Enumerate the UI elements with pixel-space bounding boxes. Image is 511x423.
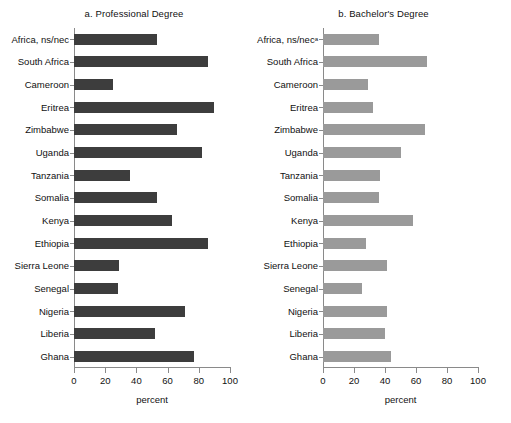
bar-row	[74, 323, 230, 346]
bar	[74, 351, 194, 362]
category-label: Liberia	[40, 323, 69, 346]
category-label: Zimbabwe	[25, 119, 69, 142]
category-label: Ethiopia	[284, 232, 318, 255]
bar	[74, 283, 118, 294]
bar-row	[323, 345, 478, 368]
y-tick-mark	[319, 221, 323, 222]
x-tick-mark	[136, 368, 137, 373]
category-label: Zimbabwe	[274, 119, 318, 142]
bar-row	[74, 232, 230, 255]
y-tick-mark	[70, 243, 74, 244]
y-tick-mark	[319, 175, 323, 176]
y-tick-mark	[70, 62, 74, 63]
bar	[323, 147, 401, 158]
bar-row	[323, 141, 478, 164]
panel-a-category-labels: Africa, ns/necSouth AfricaCameroonEritre…	[0, 28, 69, 368]
bar-row	[323, 73, 478, 96]
y-tick-mark	[319, 266, 323, 267]
bar	[323, 170, 380, 181]
category-label: Somalia	[35, 187, 69, 210]
y-tick-mark	[70, 85, 74, 86]
y-tick-mark	[70, 334, 74, 335]
category-label: Uganda	[36, 141, 69, 164]
y-tick-mark	[319, 243, 323, 244]
panel-b-plot-area	[323, 28, 478, 368]
x-tick-mark	[478, 368, 479, 373]
category-label: Sierra Leone	[264, 255, 318, 278]
bar	[74, 328, 155, 339]
figure-two-panel-bar-charts: a. Professional Degree Africa, ns/necSou…	[0, 0, 511, 423]
bar-row	[323, 96, 478, 119]
category-label: Eritrea	[41, 96, 69, 119]
bar-row	[323, 164, 478, 187]
bar-row	[323, 277, 478, 300]
category-label: Ghana	[40, 345, 69, 368]
bar-row	[74, 300, 230, 323]
bar	[74, 238, 208, 249]
panel-b-x-tick-marks	[323, 368, 478, 373]
x-tick-label: 100	[470, 375, 486, 386]
bar-row	[323, 255, 478, 278]
x-tick-label: 100	[222, 375, 238, 386]
bar-row	[323, 28, 478, 51]
bar	[74, 147, 202, 158]
bar-row	[74, 209, 230, 232]
bar	[323, 260, 387, 271]
category-label: Liberia	[289, 323, 318, 346]
bar	[323, 328, 385, 339]
y-tick-mark	[319, 62, 323, 63]
bar-row	[74, 187, 230, 210]
bar	[323, 238, 366, 249]
category-label: South Africa	[267, 51, 318, 74]
panel-a-plot-area	[74, 28, 230, 368]
bar	[323, 79, 368, 90]
y-tick-mark	[70, 289, 74, 290]
bar	[74, 124, 177, 135]
category-label: Eritrea	[290, 96, 318, 119]
x-tick-label: 40	[131, 375, 142, 386]
bar	[74, 56, 208, 67]
bar-row	[74, 119, 230, 142]
bar	[323, 124, 425, 135]
bar	[323, 34, 379, 45]
category-label: Tanzania	[280, 164, 318, 187]
x-tick-mark	[447, 368, 448, 373]
y-tick-mark	[319, 357, 323, 358]
bar-row	[323, 300, 478, 323]
panel-b-x-tick-labels: 020406080100	[323, 375, 478, 389]
x-tick-label: 0	[320, 375, 325, 386]
bar-row	[323, 232, 478, 255]
bar	[323, 56, 427, 67]
x-tick-label: 20	[100, 375, 111, 386]
category-label: Africa, ns/neca	[257, 28, 318, 51]
bar-row	[323, 323, 478, 346]
panel-professional-degree: a. Professional Degree Africa, ns/necSou…	[0, 0, 256, 423]
y-tick-mark	[70, 357, 74, 358]
y-tick-mark	[319, 198, 323, 199]
category-label: Tanzania	[31, 164, 69, 187]
category-label: Nigeria	[39, 300, 69, 323]
bar	[323, 306, 387, 317]
bar	[74, 260, 119, 271]
x-tick-mark	[105, 368, 106, 373]
bar-row	[74, 164, 230, 187]
category-label: Ethiopia	[35, 232, 69, 255]
bar	[323, 102, 373, 113]
x-tick-mark	[416, 368, 417, 373]
category-label: Senegal	[34, 277, 69, 300]
bar-row	[74, 96, 230, 119]
category-label: Cameroon	[25, 73, 69, 96]
panel-b-bars	[323, 28, 478, 368]
panel-bachelors-degree: b. Bachelor's Degree Africa, ns/necaSout…	[256, 0, 511, 423]
bar-row	[74, 277, 230, 300]
bar	[323, 351, 391, 362]
x-tick-label: 20	[349, 375, 360, 386]
y-tick-mark	[70, 153, 74, 154]
y-tick-mark	[70, 175, 74, 176]
category-label: Sierra Leone	[15, 255, 69, 278]
y-tick-mark	[319, 107, 323, 108]
bar-row	[74, 255, 230, 278]
y-tick-mark	[70, 311, 74, 312]
y-tick-mark	[70, 39, 74, 40]
panel-a-x-tick-labels: 020406080100	[74, 375, 230, 389]
